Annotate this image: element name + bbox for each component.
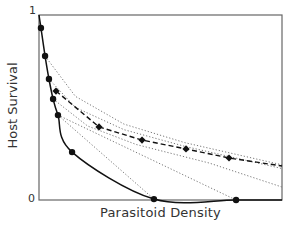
chart-plot-area bbox=[0, 0, 295, 230]
solid-curve-line bbox=[39, 15, 282, 203]
dotted-2-line bbox=[49, 79, 282, 169]
circle-marker bbox=[50, 96, 56, 102]
dotted-4-to-zero-line bbox=[58, 115, 236, 200]
circle-marker bbox=[42, 53, 48, 59]
diamond-marker bbox=[225, 154, 232, 161]
dotted-1-line bbox=[45, 56, 282, 165]
diamond-marker bbox=[138, 136, 145, 143]
circle-marker bbox=[233, 197, 239, 203]
dotted-5-to-zero-line bbox=[58, 115, 154, 199]
circle-marker bbox=[38, 25, 44, 31]
dashed-curve-line bbox=[56, 91, 282, 166]
x-axis-label: Parasitoid Density bbox=[100, 205, 221, 220]
circle-marker bbox=[55, 112, 61, 118]
dotted-3-line bbox=[53, 99, 282, 187]
series-layer bbox=[38, 15, 282, 203]
circle-marker bbox=[69, 149, 75, 155]
y-axis-label: Host Survival bbox=[5, 56, 20, 156]
y-tick-0: 0 bbox=[28, 192, 35, 205]
y-tick-1: 1 bbox=[29, 4, 36, 17]
circle-marker bbox=[151, 196, 157, 202]
circle-marker bbox=[46, 76, 52, 82]
